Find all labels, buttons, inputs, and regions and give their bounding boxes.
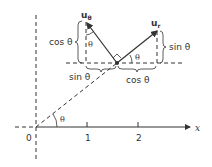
origin-label: 0 [26, 133, 32, 143]
u-r-label: ur [151, 18, 160, 29]
u-theta-vertical-component: cos θ [49, 37, 73, 47]
x-axis-label: x [195, 123, 200, 133]
u-r-horizontal-component: cos θ [126, 75, 150, 85]
u-r-angle: θ [135, 53, 140, 62]
tick-2: 2 [136, 133, 142, 143]
u-r-vertical-component: sin θ [169, 42, 191, 52]
u-theta-angle: θ [88, 40, 93, 49]
u-theta-horizontal-component: sin θ [69, 72, 91, 82]
tick-1: 1 [85, 133, 91, 143]
polar-unit-vectors-diagram: x 0 1 2 θ uθ θ cos θ sin θ ur θ sin θ co… [0, 0, 212, 167]
origin-angle: θ [60, 115, 65, 124]
u-theta-label: uθ [81, 10, 92, 21]
